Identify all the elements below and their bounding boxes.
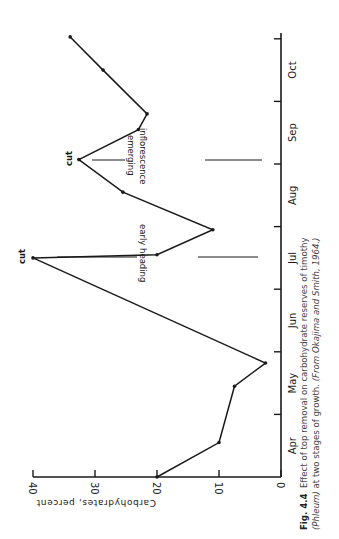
caption-line-1: Effect of top removal on carbohydrate re… (299, 237, 309, 488)
caption-line-2: at two stages of growth. (311, 381, 321, 491)
data-point (233, 384, 237, 388)
figure-number: Fig. 4.4 (299, 494, 309, 530)
cut-label-1: cut (17, 249, 27, 264)
value-tick-label: 20 (151, 482, 162, 495)
figure-caption: Fig. 4.4 Effect of top removal on carboh… (298, 130, 322, 530)
data-point (121, 190, 125, 194)
annotation-early-heading: early heading (138, 224, 148, 282)
data-point (77, 158, 81, 162)
y-axis-title: Carbohydrates, percent (36, 498, 156, 508)
month-label-jun: Jun (287, 313, 298, 330)
caption-source: (From Okajima and Smith, 1964.) (311, 238, 321, 382)
month-axis-ticks: AprMayJunJulAugSepOct (274, 39, 298, 455)
data-point (217, 441, 221, 445)
data-point (155, 253, 159, 257)
value-axis-ticks: 010203040 (27, 470, 286, 495)
data-point (101, 68, 105, 72)
value-tick-label: 40 (27, 482, 38, 495)
month-label-oct: Oct (287, 61, 298, 78)
cut-label-2: cut (64, 151, 74, 166)
value-tick-label: 30 (89, 482, 100, 495)
month-label-aug: Aug (287, 186, 298, 206)
month-label-sep: Sep (287, 123, 298, 142)
annotation-emerging: emerging (126, 135, 136, 176)
annotation-inflorescence: inflorescence (138, 128, 148, 184)
data-point (31, 256, 35, 260)
month-label-jul: Jul (287, 252, 298, 265)
month-label-may: May (287, 373, 298, 394)
data-point (155, 475, 159, 479)
data-point (211, 228, 215, 232)
data-point (145, 112, 149, 116)
month-label-apr: Apr (287, 436, 298, 454)
caption-genus: (Phleum) (311, 491, 321, 530)
carbohydrate-chart: 010203040 AprMayJunJulAugSepOct Carbohyd… (0, 0, 339, 539)
data-point (264, 361, 268, 365)
data-point (68, 35, 72, 39)
value-tick-label: 0 (275, 482, 286, 488)
value-tick-label: 10 (213, 482, 224, 495)
